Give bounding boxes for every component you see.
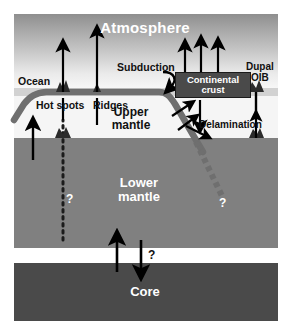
label-upper-mantle-line2: mantle xyxy=(112,118,151,132)
diagram-canvas: Continental crust Atmosphere Ocean Hot s… xyxy=(0,0,290,335)
arrow-subduction-curved xyxy=(163,72,174,88)
arrow-group-core-mantle xyxy=(117,238,141,272)
question-mark-plume: ? xyxy=(66,192,73,206)
label-lower-mantle-line2: mantle xyxy=(118,189,160,204)
label-atmosphere: Atmosphere xyxy=(0,20,290,36)
label-dupal-line2: OIB xyxy=(251,72,269,83)
question-mark-core: ? xyxy=(148,248,155,262)
continental-crust-box: Continental crust xyxy=(175,72,251,98)
label-dupal-oib: Dupal OIB xyxy=(246,62,274,83)
question-mark-slab: ? xyxy=(219,196,226,210)
label-core: Core xyxy=(0,285,290,299)
label-delamination: Delamination xyxy=(199,120,262,131)
label-hot-spots: Hot spots xyxy=(36,100,84,111)
label-dupal-line1: Dupal xyxy=(246,61,274,72)
label-subduction: Subduction xyxy=(117,62,175,73)
label-ocean: Ocean xyxy=(18,76,50,87)
continental-crust-label-line2: crust xyxy=(201,84,224,95)
label-lower-mantle: Lower mantle xyxy=(103,176,175,203)
label-upper-mantle: Upper mantle xyxy=(103,106,159,131)
